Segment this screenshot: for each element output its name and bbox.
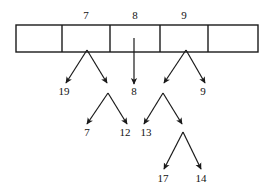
bucket-index-label-9: 9 <box>181 10 187 21</box>
edge-n183-left <box>164 132 183 169</box>
edge-bucket7-right <box>87 50 107 83</box>
bucket-array-dividers <box>62 25 208 52</box>
bucket-index-label-8: 8 <box>132 10 138 21</box>
node-8: 8 <box>131 86 137 97</box>
edge-n162-right <box>163 93 182 124</box>
edge-bucket7-left <box>66 50 87 83</box>
edge-bucket9-right <box>186 50 205 83</box>
edge-n162-left <box>144 93 163 124</box>
edge-n183-right <box>183 132 201 169</box>
edge-n107-right <box>108 93 127 124</box>
node-17: 17 <box>158 173 169 184</box>
node-13: 13 <box>141 127 152 138</box>
node-12: 12 <box>120 127 131 138</box>
hash-table-tree-diagram: 789 1989712131714 <box>0 0 267 192</box>
node-19: 19 <box>59 86 70 97</box>
tree-edges <box>66 38 205 169</box>
node-9: 9 <box>200 86 206 97</box>
node-14: 14 <box>196 173 207 184</box>
bucket-index-label-7: 7 <box>83 10 89 21</box>
bucket-array-outline <box>16 25 258 52</box>
edge-n107-left <box>87 93 108 124</box>
bucket-array <box>16 25 258 52</box>
node-7: 7 <box>84 127 90 138</box>
edge-bucket9-left <box>164 50 186 83</box>
